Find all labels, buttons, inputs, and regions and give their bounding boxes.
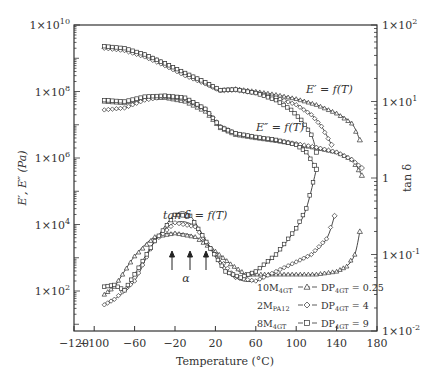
y-right-tick-label: 1×10-2 — [382, 323, 420, 338]
legend-entry: 10M4GTDP4GT = 0.25 — [257, 282, 384, 295]
y-axis-title-right: tan δ — [401, 164, 414, 193]
y-left-tick-label: 1×102 — [35, 283, 70, 298]
svg-text:2MPA12: 2MPA12 — [257, 300, 290, 313]
y-right-tick-label: 1×102 — [382, 17, 417, 32]
x-tick-label: 20 — [208, 337, 222, 350]
y-right-tick-label: 1×101 — [382, 94, 417, 109]
annotation-alpha: α — [182, 272, 190, 285]
y-axis-title-left: E′, E″ (Pa) — [16, 150, 29, 206]
x-tick-label: 180 — [367, 337, 388, 350]
annotation-e-prime: E′ = f(T) — [305, 83, 353, 96]
y-right-tick-label: 1×10-1 — [382, 247, 420, 262]
y-left-tick-label: 1×104 — [35, 217, 70, 232]
y-left-tick-label: 1×106 — [35, 150, 70, 165]
svg-text:10M4GT: 10M4GT — [257, 282, 293, 295]
svg-text:8M4GT: 8M4GT — [257, 318, 287, 331]
x-tick-label: −60 — [123, 337, 146, 350]
annotation-e-double-prime: E″ = f(T) — [255, 121, 304, 134]
x-tick-label: 100 — [286, 337, 307, 350]
annotation-tan-delta: tan δ = f(T) — [163, 209, 227, 222]
legend-entry: 8M4GTDP4GT = 9 — [257, 318, 369, 331]
svg-text:DP4GT = 0.25: DP4GT = 0.25 — [321, 282, 384, 295]
x-tick-label: 140 — [326, 337, 347, 350]
alpha-arrows — [170, 251, 209, 270]
x-tick-label: 60 — [249, 337, 263, 350]
legend: 10M4GTDP4GT = 0.252MPA12DP4GT = 48M4GTDP… — [257, 282, 384, 331]
y-left-tick-label: 1×1010 — [30, 17, 70, 32]
y-left-tick-label: 1×108 — [35, 84, 70, 99]
x-tick-label: −20 — [163, 337, 186, 350]
legend-entry: 2MPA12DP4GT = 4 — [257, 300, 369, 313]
svg-text:DP4GT = 4: DP4GT = 4 — [321, 300, 369, 313]
svg-text:DP4GT = 9: DP4GT = 9 — [321, 318, 369, 331]
dma-chart: −120−100−60−2020601001401801×10101×1081×… — [0, 0, 433, 378]
series-curve — [103, 167, 319, 292]
x-tick-label: −100 — [79, 337, 109, 350]
y-right-tick-label: 1 — [382, 172, 389, 185]
x-axis-title: Temperature (°C) — [176, 355, 274, 368]
